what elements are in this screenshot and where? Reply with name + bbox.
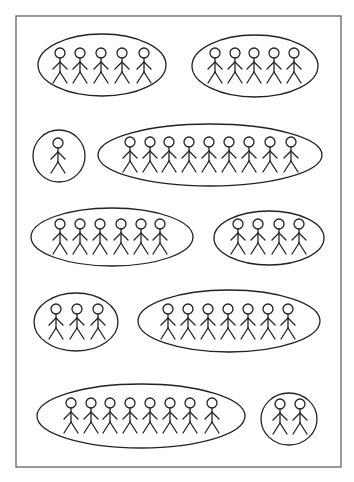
stick-figure-icon (93, 219, 107, 254)
group-ellipse (98, 124, 322, 186)
stick-figure-icon (84, 398, 98, 433)
group-ellipse (34, 293, 118, 351)
group-circle (261, 393, 317, 445)
stick-figure-icon (137, 48, 151, 83)
stick-figure-icon (162, 137, 176, 172)
groups-layer (31, 34, 324, 448)
stick-figure-icon (261, 304, 275, 339)
stick-figure-icon (183, 398, 197, 433)
stick-figure-icon (273, 399, 287, 434)
stick-figure-icon (281, 304, 295, 339)
stick-figure-icon (181, 304, 195, 339)
stick-figure-icon (222, 137, 236, 172)
stick-figure-icon (163, 398, 177, 433)
group-9 (37, 384, 245, 448)
stick-figure-icon (287, 48, 301, 83)
stick-figure-icon (284, 137, 298, 172)
stick-figure-icon (49, 304, 63, 339)
group-7 (34, 293, 118, 351)
stick-figure-icon (134, 219, 148, 254)
stick-figure-icon (143, 137, 157, 172)
stick-figure-icon (201, 304, 215, 339)
group-2 (192, 35, 318, 97)
stick-figure-icon (161, 304, 175, 339)
stick-figure-icon (247, 48, 261, 83)
stick-figure-icon (182, 137, 196, 172)
group-ellipse (214, 211, 324, 265)
stick-figure-icon (114, 219, 128, 254)
diagram-canvas (0, 0, 354, 482)
stick-figure-icon (272, 219, 286, 254)
stick-figure-icon (251, 219, 265, 254)
group-5 (31, 208, 193, 266)
stick-figure-icon (205, 398, 219, 433)
stick-figure-icon (153, 219, 167, 254)
stick-figure-icon (123, 398, 137, 433)
stick-figure-icon (123, 137, 137, 172)
stick-figure-icon (267, 48, 281, 83)
stick-figure-icon (73, 219, 87, 254)
stick-figure-icon (228, 48, 242, 83)
stick-figure-icon (293, 399, 307, 434)
stick-figure-icon (292, 219, 306, 254)
stick-figure-icon (53, 48, 67, 83)
group-3 (33, 130, 85, 182)
stick-figure-icon (241, 304, 255, 339)
stick-figure-icon (143, 398, 157, 433)
stick-figure-icon (115, 48, 129, 83)
stick-figure-icon (51, 138, 65, 173)
stick-figure-icon (53, 219, 67, 254)
group-ellipse (37, 384, 245, 448)
stick-figure-icon (202, 137, 216, 172)
group-8 (138, 290, 320, 352)
stick-figure-icon (263, 137, 277, 172)
stick-figure-icon (70, 304, 84, 339)
stick-figure-icon (94, 48, 108, 83)
stick-figure-icon (103, 398, 117, 433)
stick-figure-icon (91, 304, 105, 339)
stick-figure-icon (73, 48, 87, 83)
group-10 (261, 393, 317, 445)
stick-figure-icon (64, 398, 78, 433)
stick-figure-icon (231, 219, 245, 254)
group-1 (38, 34, 166, 96)
stick-figure-icon (208, 48, 222, 83)
stick-figure-icon (221, 304, 235, 339)
group-4 (98, 124, 322, 186)
group-6 (214, 211, 324, 265)
stick-figure-icon (242, 137, 256, 172)
diagram-frame (16, 16, 341, 467)
